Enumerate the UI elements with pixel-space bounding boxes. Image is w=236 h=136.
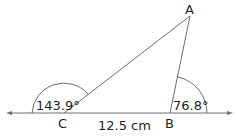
side-length-label: 12.5 cm — [98, 118, 151, 133]
vertex-label-A: A — [185, 2, 194, 17]
vertex-label-B: B — [165, 116, 174, 131]
vertex-label-C: C — [58, 116, 67, 131]
angle-label-C: 143.9° — [36, 98, 80, 113]
left-arrow-icon — [6, 111, 12, 115]
right-arrow-icon — [227, 111, 233, 115]
side-CA — [64, 16, 190, 113]
triangle-diagram: A C B 143.9° 76.8° 12.5 cm — [0, 0, 236, 136]
angle-label-B: 76.8° — [173, 98, 208, 113]
